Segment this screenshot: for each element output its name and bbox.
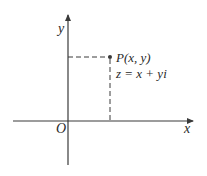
origin-label: O: [56, 121, 66, 136]
point-label: P(x, y): [115, 50, 151, 65]
point-p: [108, 55, 112, 59]
complex-plane-diagram: y O x P(x, y) z = x + yi: [0, 0, 207, 176]
equation-label: z = x + yi: [115, 66, 167, 81]
x-axis-label: x: [183, 121, 191, 136]
y-axis-label: y: [56, 21, 65, 36]
